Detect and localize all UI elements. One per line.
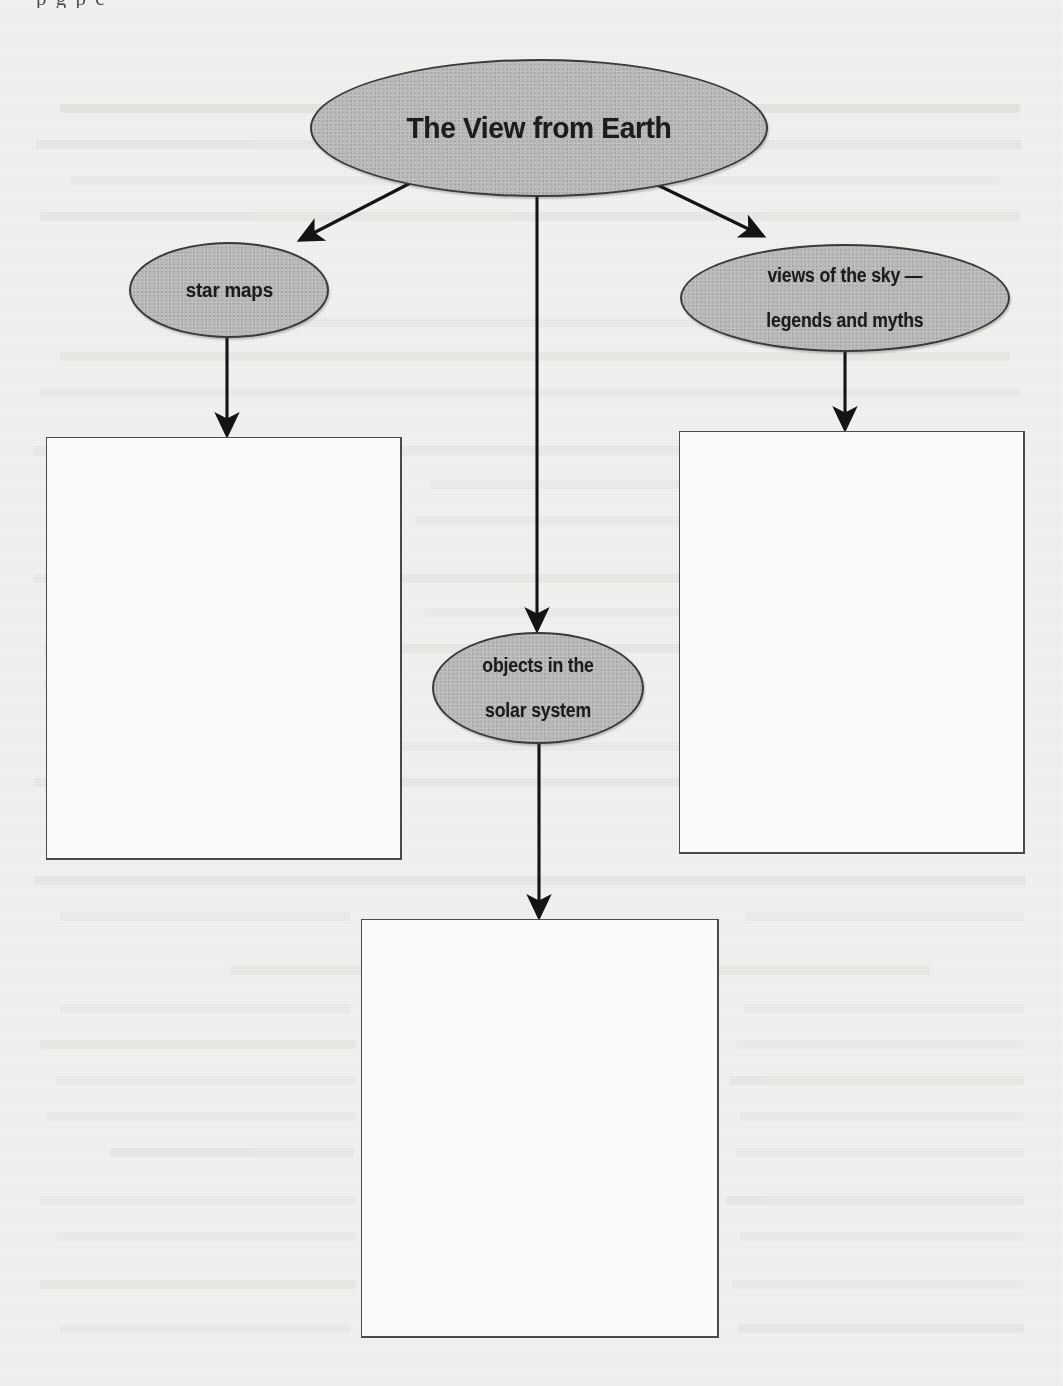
connector-root-to-star-maps (300, 176, 424, 240)
objects-label-line-1: objects in the (473, 654, 602, 676)
concept-node-views-of-the-sky-label: views of the sky — legends and myths (743, 264, 948, 331)
concept-node-root-label: The View from Earth (397, 111, 681, 145)
answer-box-objects-solar-system[interactable] (361, 919, 719, 1338)
objects-label-line-2: solar system (473, 699, 602, 721)
concept-node-objects-solar-system-label: objects in the solar system (460, 654, 616, 721)
concept-map-page: p g p c The View from Earth star maps (0, 0, 1063, 1386)
concept-node-views-of-the-sky: views of the sky — legends and myths (680, 244, 1010, 352)
answer-box-views-of-the-sky[interactable] (679, 431, 1025, 854)
concept-node-objects-solar-system: objects in the solar system (432, 632, 644, 744)
answer-box-star-maps[interactable] (46, 437, 402, 860)
views-label-line-1: views of the sky — (758, 264, 933, 286)
concept-node-star-maps: star maps (129, 242, 329, 338)
concept-node-root: The View from Earth (310, 59, 768, 197)
views-label-line-2: legends and myths (758, 309, 933, 331)
concept-node-star-maps-label: star maps (176, 279, 282, 301)
